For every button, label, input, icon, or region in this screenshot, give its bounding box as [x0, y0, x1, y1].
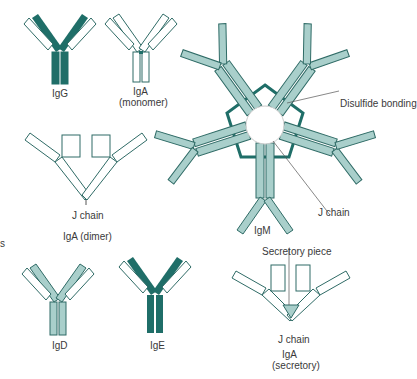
- label-iga-secretory-sub: (secretory): [272, 360, 320, 371]
- label-iga-secretory: IgA: [282, 349, 297, 360]
- igm-molecule: [153, 20, 378, 234]
- label-igd: IgD: [52, 340, 68, 351]
- iga-monomer-molecule: [105, 14, 177, 82]
- label-secretory-piece: Secretory piece: [262, 246, 331, 257]
- iga-secretory-molecule: [232, 248, 350, 321]
- label-iga-monomer: IgA: [133, 86, 148, 97]
- label-igm: IgM: [254, 225, 271, 236]
- label-iga-dimer: IgA (dimer): [63, 231, 112, 242]
- label-ige: IgE: [150, 340, 165, 351]
- label-disulfide-bonding: Disulfide bonding: [340, 98, 417, 109]
- igd-molecule: [22, 264, 94, 335]
- iga-dimer-molecule: [25, 133, 147, 205]
- igg-molecule: [24, 14, 96, 84]
- ige-molecule: [119, 257, 191, 333]
- label-jchain-secretory: J chain: [278, 334, 310, 345]
- label-jchain-igm: J chain: [318, 207, 350, 218]
- label-igg: IgG: [52, 88, 68, 99]
- label-jchain-dimer: J chain: [72, 210, 104, 221]
- label-iga-monomer-sub: (monomer): [119, 97, 168, 108]
- edge-letter: s: [0, 238, 5, 249]
